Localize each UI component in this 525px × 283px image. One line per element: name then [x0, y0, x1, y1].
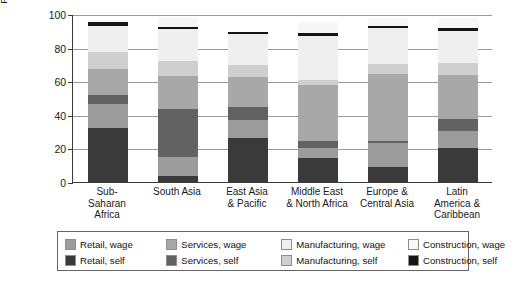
x-axis-label-line: South Asia [142, 186, 212, 198]
y-axis-title-line-1: Percentage of total non-farm [0, 0, 10, 18]
bar-segment[interactable] [298, 158, 338, 182]
legend-row-self: Retail, selfServices, selfManufacturing,… [65, 252, 468, 268]
plot-area: 020406080100 [72, 15, 492, 183]
bar-segment[interactable] [228, 65, 268, 77]
legend-swatch [65, 239, 76, 250]
bar-segment[interactable] [158, 76, 198, 109]
bar-stack[interactable] [438, 18, 478, 182]
bar-segment[interactable] [158, 17, 198, 27]
x-axis-label: Sub-SaharanAfrica [72, 186, 142, 221]
legend-swatch [281, 239, 292, 250]
legend-item[interactable]: Manufacturing, self [281, 255, 408, 266]
bar-segment[interactable] [438, 31, 478, 63]
bar-segment[interactable] [88, 95, 128, 104]
legend-label: Construction, self [423, 255, 497, 266]
bar-segment[interactable] [368, 143, 408, 167]
bar-stack[interactable] [368, 18, 408, 182]
x-axis-label: East Asia& Pacific [212, 186, 282, 209]
x-axis-label: South Asia [142, 186, 212, 198]
x-axis-label-line: Sub- [72, 186, 142, 198]
bar-segment[interactable] [88, 69, 128, 94]
bar-segment[interactable] [158, 109, 198, 157]
legend-item[interactable]: Retail, wage [65, 239, 166, 250]
y-axis-title: Percentage of total non-farm employment [0, 0, 22, 18]
legend-label: Services, wage [181, 239, 246, 250]
bar-stack[interactable] [298, 22, 338, 182]
bar-segment[interactable] [88, 26, 128, 52]
x-axis-label-line: Europe & [352, 186, 422, 198]
legend-swatch [408, 255, 419, 266]
bar-segment[interactable] [158, 29, 198, 61]
y-axis-tick-label: 40 [55, 110, 66, 122]
legend-swatch [281, 255, 292, 266]
legend-item[interactable]: Retail, self [65, 255, 166, 266]
bar-segment[interactable] [228, 107, 268, 120]
bar-segment[interactable] [438, 119, 478, 131]
chart-figure: Percentage of total non-farm employment … [0, 0, 525, 283]
x-axis-label-line: & North Africa [282, 198, 352, 210]
bar-segment[interactable] [438, 131, 478, 149]
x-axis-label-line: Saharan [72, 198, 142, 210]
bar-segment[interactable] [158, 61, 198, 76]
x-axis-label: Middle East& North Africa [282, 186, 352, 209]
y-axis-title-line-2: employment [10, 0, 22, 18]
legend-row-wage: Retail, wageServices, wageManufacturing,… [65, 236, 468, 252]
legend-label: Retail, self [80, 255, 125, 266]
legend-label: Services, self [181, 255, 238, 266]
x-axis-label-line: Caribbean [422, 209, 492, 221]
bar-segment[interactable] [298, 85, 338, 141]
y-axis-tick-label: 60 [55, 76, 66, 88]
x-axis-label-line: America & [422, 198, 492, 210]
y-axis-tick-label: 20 [55, 143, 66, 155]
x-axis-label-line: Middle East [282, 186, 352, 198]
bar-segment[interactable] [88, 104, 128, 128]
bar-segment[interactable] [228, 138, 268, 182]
x-axis-label: Europe &Central Asia [352, 186, 422, 209]
legend-item[interactable]: Services, self [166, 255, 281, 266]
bar-segment[interactable] [158, 176, 198, 182]
chart-legend: Retail, wageServices, wageManufacturing,… [57, 231, 469, 271]
bar-segment[interactable] [438, 18, 478, 28]
bar-segment[interactable] [228, 120, 268, 138]
bar-segment[interactable] [368, 167, 408, 182]
x-axis-label-line: East Asia [212, 186, 282, 198]
bar-segment[interactable] [228, 34, 268, 65]
x-axis-label: LatinAmerica &Caribbean [422, 186, 492, 221]
legend-label: Manufacturing, wage [296, 239, 385, 250]
bar-stack[interactable] [88, 20, 128, 182]
legend-item[interactable]: Construction, self [408, 255, 468, 266]
bar-stack[interactable] [158, 17, 198, 182]
y-axis-tick-label: 80 [55, 43, 66, 55]
y-axis-tick-label: 0 [60, 177, 66, 189]
bar-segment[interactable] [368, 28, 408, 63]
x-axis-label-line: Central Asia [352, 198, 422, 210]
bar-segment[interactable] [158, 157, 198, 176]
legend-swatch [65, 255, 76, 266]
bar-segment[interactable] [298, 22, 338, 33]
x-axis-label-line: & Pacific [212, 198, 282, 210]
legend-swatch [408, 239, 419, 250]
bar-segment[interactable] [438, 63, 478, 76]
bar-segment[interactable] [438, 148, 478, 182]
legend-label: Manufacturing, self [296, 255, 377, 266]
legend-label: Construction, wage [423, 239, 505, 250]
bar-segment[interactable] [368, 18, 408, 26]
legend-item[interactable]: Construction, wage [408, 239, 468, 250]
bar-segment[interactable] [368, 74, 408, 141]
bar-stack[interactable] [228, 32, 268, 182]
legend-swatch [166, 239, 177, 250]
legend-item[interactable]: Manufacturing, wage [281, 239, 408, 250]
bar-segment[interactable] [228, 77, 268, 107]
x-axis-label-line: Africa [72, 209, 142, 221]
bar-segment[interactable] [298, 36, 338, 80]
bar-segment[interactable] [438, 75, 478, 119]
bar-segment[interactable] [298, 148, 338, 157]
x-axis-labels: Sub-SaharanAfricaSouth AsiaEast Asia& Pa… [72, 186, 492, 230]
y-axis-tick [68, 183, 73, 184]
bar-segment[interactable] [298, 141, 338, 149]
bar-segment[interactable] [368, 64, 408, 74]
bar-segment[interactable] [88, 52, 128, 70]
y-axis-tick-label: 100 [49, 9, 66, 21]
legend-item[interactable]: Services, wage [166, 239, 281, 250]
bar-segment[interactable] [88, 128, 128, 182]
